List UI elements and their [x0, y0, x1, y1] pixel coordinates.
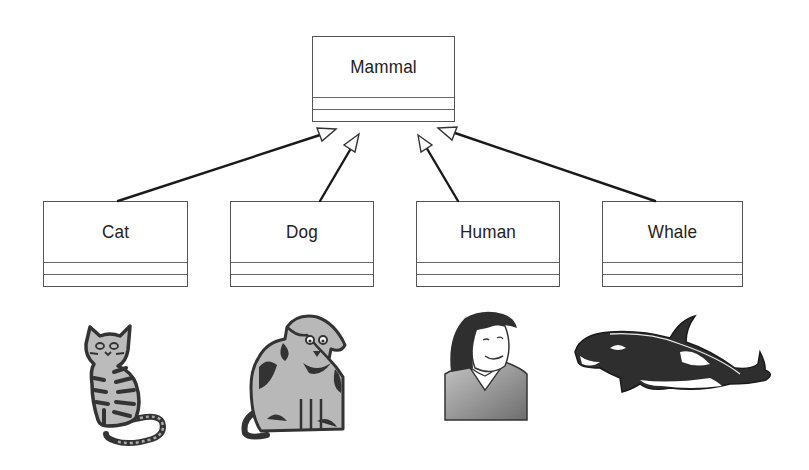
arrowhead-dog-icon: [344, 134, 359, 152]
arrowhead-human-icon: [418, 135, 432, 152]
arrow-line-human: [426, 147, 458, 201]
whale-illustration-icon: [570, 312, 775, 397]
dog-illustration-icon: [237, 307, 352, 442]
human-illustration-icon: [443, 306, 531, 422]
arrow-line-dog: [320, 150, 350, 201]
arrowhead-whale-icon: [438, 127, 457, 140]
arrowhead-cat-icon: [317, 128, 336, 141]
arrow-line-cat: [118, 135, 320, 201]
arrow-line-whale: [455, 133, 655, 201]
cat-illustration-icon: [70, 322, 175, 452]
